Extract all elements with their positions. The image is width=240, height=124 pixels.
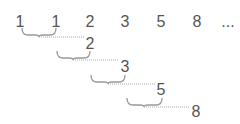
sum-result: 5: [157, 82, 166, 98]
sequence-number: 1: [16, 14, 25, 30]
curly-brace: [91, 75, 125, 84]
sum-result: 8: [192, 104, 201, 120]
sequence-number: 5: [157, 14, 166, 30]
sequence-number: ...: [221, 14, 234, 30]
sequence-number: 3: [121, 14, 130, 30]
sum-result: 3: [121, 59, 130, 75]
fibonacci-diagram: 112358...2358: [0, 0, 240, 124]
sequence-number: 1: [52, 14, 61, 30]
sequence-number: 8: [193, 14, 202, 30]
curly-brace: [127, 98, 162, 107]
curly-brace: [57, 51, 90, 60]
sum-result: 2: [86, 36, 95, 52]
sequence-number: 2: [86, 14, 95, 30]
